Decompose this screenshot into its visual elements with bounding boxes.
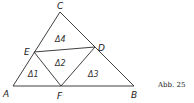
label-F: F	[57, 91, 63, 101]
label-A: A	[2, 89, 9, 99]
triangle-diagram: C A B F E D Δ1 Δ2 Δ3 Δ4 Abb. 25	[0, 0, 194, 103]
region-label-2: Δ2	[54, 59, 66, 68]
segment-EF	[34, 52, 61, 86]
label-C: C	[57, 1, 64, 11]
figure-caption: Abb. 25	[157, 81, 185, 89]
label-D: D	[98, 43, 105, 53]
region-label-3: Δ3	[87, 70, 99, 79]
segment-FD	[61, 47, 95, 86]
region-label-4: Δ4	[54, 35, 66, 44]
segment-ED	[34, 47, 95, 52]
region-label-1: Δ1	[27, 70, 39, 79]
label-E: E	[24, 47, 30, 57]
label-B: B	[131, 90, 137, 100]
